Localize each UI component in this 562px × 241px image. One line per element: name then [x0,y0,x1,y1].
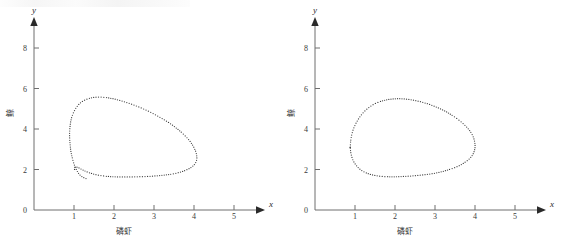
curve-point [174,126,175,127]
curve-point [424,174,425,175]
curve-point [186,169,187,170]
curve-point [121,100,122,101]
curve-point [188,168,189,169]
curve-point [390,99,391,100]
y-axis-caption-left: 鲸 [5,109,15,117]
y-tick-label-2-right: 2 [304,166,308,175]
curve-point [144,176,145,177]
curve-point [434,173,435,174]
curve-point [358,167,359,168]
curve-point [382,100,383,101]
curve-point [129,176,130,177]
curve-point [470,132,471,133]
curve-point [361,170,362,171]
curve-point [377,102,378,103]
curve-point [80,102,81,103]
curve-point [78,173,79,174]
curve-point [134,176,135,177]
curve-point [80,168,81,169]
curve-point [454,167,455,168]
curve-point [69,130,70,131]
curve-point [350,144,351,145]
curve-point [442,109,443,110]
curve-point [115,176,116,177]
curve-point [93,97,94,98]
x-tick-label-5-right: 5 [513,212,517,221]
curve-point [74,164,75,165]
curve-point [176,127,177,128]
y-tick-label-4-right: 4 [304,125,308,134]
plot-svg-left: 0 2 4 6 8 1 2 3 4 5 y x 磷虾 鲸 [0,0,281,241]
curve-point [463,163,464,164]
curve-point [196,160,197,161]
x-tick-label-1-right: 1 [353,212,357,221]
y-tick-label-8-left: 8 [23,44,27,53]
curve-point [375,103,376,104]
curve-point [356,165,357,166]
curve-point [351,154,352,155]
curve-point [351,134,352,135]
y-tick-label-2-left: 2 [23,166,27,175]
curve-point [404,98,405,99]
curve-point [119,176,120,177]
curve-point [370,105,371,106]
curve-point [136,105,137,106]
curve-point [72,160,73,161]
y-ticks-right [315,48,320,170]
x-axis-caption-right: 磷虾 [397,226,413,236]
curve-point [143,108,144,109]
curve-point [188,139,189,140]
curve-point [350,152,351,153]
curve-point [357,120,358,121]
curve-point [74,169,75,170]
curve-point [401,98,402,99]
curve-point [352,130,353,131]
curve-point [166,121,167,122]
curve-point [70,144,71,145]
curve-point [108,176,109,177]
chart-panel-left: 0 2 4 6 8 1 2 3 4 5 y x 磷虾 鲸 [0,0,281,241]
curve-point [74,110,75,111]
figure-container: 0 2 4 6 8 1 2 3 4 5 y x 磷虾 鲸 [0,0,562,241]
curve-point [75,108,76,109]
curve-point [112,176,113,177]
curve-point [474,145,475,146]
curve-point [170,123,171,124]
curve-point [192,144,193,145]
y-ticks-left [34,48,39,170]
curve-point [142,176,143,177]
curve-point [86,99,87,100]
curve-point [172,125,173,126]
curve-point [368,173,369,174]
curve-point [427,103,428,104]
y-axis-arrowhead-right [311,17,318,26]
curve-point [431,105,432,106]
curve-point [361,114,362,115]
curve-point [384,176,385,177]
curve-point [84,100,85,101]
curve-point [190,141,191,142]
curve-point [468,128,469,129]
curve-point [157,175,158,176]
curve-point [124,176,125,177]
curve-point [84,170,85,171]
curve-point [73,162,74,163]
curve-point [410,175,411,176]
curve-point [159,175,160,176]
curve-point [124,101,125,102]
curve-point [69,142,70,143]
curve-point [411,99,412,100]
curve-point [193,147,194,148]
curve-point [69,140,70,141]
curve-point [129,103,130,104]
curve-point [469,130,470,131]
curve-point [422,174,423,175]
curve-point [196,153,197,154]
curve-point [74,167,75,168]
curve-point [71,153,72,154]
curve-point [70,146,71,147]
x-tick-label-5-left: 5 [232,212,236,221]
curve-point [70,151,71,152]
curve-point [78,104,79,105]
x-tick-label-2-right: 2 [393,212,397,221]
